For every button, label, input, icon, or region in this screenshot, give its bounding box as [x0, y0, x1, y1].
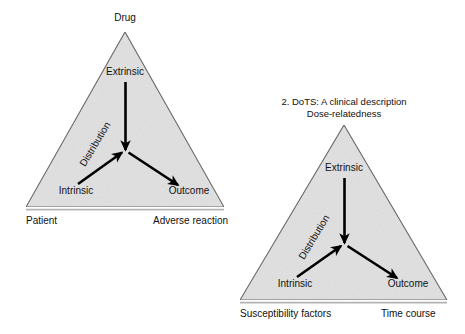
left-triangle-group	[26, 32, 224, 210]
right-outcome-label: Outcome	[388, 278, 429, 289]
right-extrinsic-label: Extrinsic	[325, 162, 363, 173]
figure-root: Drug Extrinsic Intrinsic Outcome Distrib…	[0, 0, 465, 334]
right-base-right-label: Time course	[381, 308, 436, 319]
right-triangle-group	[240, 125, 447, 303]
left-extrinsic-label: Extrinsic	[106, 66, 144, 77]
left-outcome-label: Outcome	[169, 185, 210, 196]
left-intrinsic-label: Intrinsic	[59, 185, 93, 196]
right-base-left-label: Susceptibility factors	[240, 308, 331, 319]
left-base-left-label: Patient	[26, 215, 57, 226]
right-title-line-1: 2. DoTS: A clinical description	[281, 96, 406, 108]
left-apex-label: Drug	[114, 12, 136, 23]
right-intrinsic-label: Intrinsic	[278, 278, 312, 289]
left-base-right-label: Adverse reaction	[153, 215, 228, 226]
right-title-line-2: Dose-relatedness	[307, 108, 381, 120]
